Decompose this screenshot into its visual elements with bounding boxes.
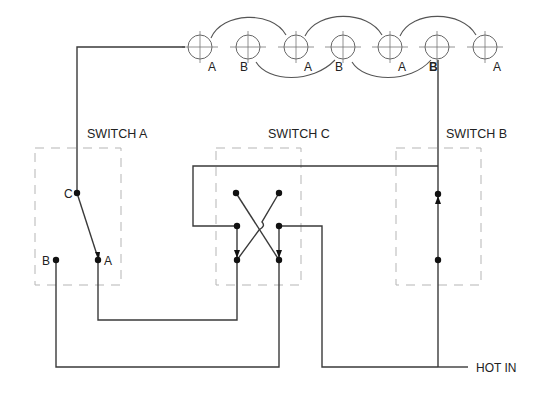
top-loop-3 — [400, 16, 476, 36]
switch-c-terminal-2 — [276, 190, 282, 196]
wire-switch-c-to-switch-b-top — [193, 166, 438, 226]
light-label: B — [240, 60, 248, 74]
light-label: B — [335, 60, 343, 74]
light-label: A — [304, 60, 312, 74]
light-label: A — [208, 60, 216, 74]
light-fixture: B — [325, 31, 361, 74]
light-fixtures: ABABABA — [182, 31, 503, 74]
wire-switch-c-to-hot — [279, 226, 438, 367]
bottom-loop-1 — [256, 60, 335, 78]
switch-c-terminal-4 — [276, 223, 282, 229]
bottom-loop-2 — [352, 60, 431, 78]
switch-b-title: SWITCH B — [446, 127, 507, 141]
switch-a-lever — [77, 193, 98, 258]
switch-a-terminal-c — [74, 190, 80, 196]
light-fixture: B — [419, 31, 455, 74]
switch-a-label-b: B — [42, 254, 50, 268]
light-fixture: A — [372, 31, 408, 74]
light-fixture: A — [182, 31, 218, 74]
switch-a-title: SWITCH A — [87, 127, 148, 141]
top-loop-2 — [305, 16, 382, 36]
switch-b-terminal-2 — [435, 257, 441, 263]
light-label: A — [493, 60, 501, 74]
wire-switch-a-b-to-switch-c — [56, 260, 279, 367]
light-fixture: A — [278, 31, 314, 74]
switch-a-label-a: A — [104, 254, 112, 268]
switch-b-terminal-1 — [435, 191, 441, 197]
light-label: A — [398, 60, 406, 74]
light-fixture: A — [467, 31, 503, 74]
switch-a-terminal-b — [53, 257, 59, 263]
switch-c-title: SWITCH C — [268, 127, 330, 141]
switch-a-terminal-a — [95, 257, 101, 263]
switch-c-box — [216, 148, 301, 285]
wiring-diagram: SWITCH A SWITCH C SWITCH B ABABABA HOT I… — [0, 0, 541, 399]
hot-in-label: HOT IN — [476, 361, 516, 375]
wire-light-to-switch-a-common — [77, 47, 185, 193]
switch-c-terminal-6 — [276, 257, 282, 263]
switch-a-label-c: C — [64, 187, 73, 201]
switch-c-terminal-1 — [233, 190, 239, 196]
light-label: B — [429, 60, 438, 74]
switch-c-terminal-5 — [234, 257, 240, 263]
switch-c-terminal-3 — [234, 223, 240, 229]
